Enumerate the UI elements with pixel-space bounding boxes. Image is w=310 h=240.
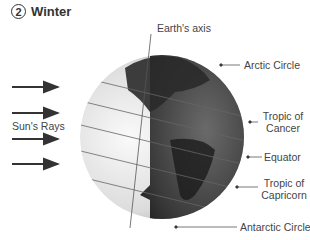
label-tropic-of-cancer: Tropic of Cancer — [260, 110, 306, 134]
label-line: Tropic of — [260, 110, 306, 122]
label-line: Cancer — [260, 122, 306, 134]
label-earths-axis: Earth's axis — [157, 22, 211, 34]
title-text: Winter — [31, 4, 71, 19]
earth-globe — [60, 40, 260, 240]
label-line: Capricorn — [258, 189, 310, 201]
diagram-title: 2 Winter — [11, 4, 71, 19]
label-arctic-circle: Arctic Circle — [244, 59, 300, 71]
step-number: 2 — [11, 4, 26, 19]
label-line: Tropic of — [258, 177, 310, 189]
label-equator: Equator — [264, 151, 301, 163]
label-suns-rays: Sun's Rays — [12, 120, 65, 132]
label-tropic-of-capricorn: Tropic of Capricorn — [258, 177, 310, 201]
label-antarctic-circle: Antarctic Circle — [240, 221, 310, 233]
